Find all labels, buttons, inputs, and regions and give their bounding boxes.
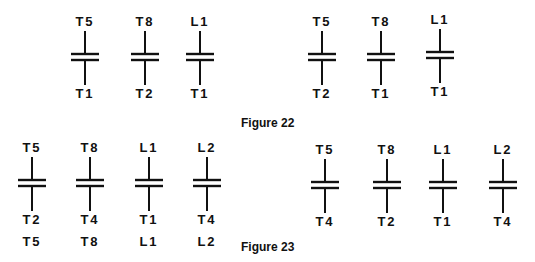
contact-icon: [305, 159, 345, 215]
contact-icon: [361, 31, 401, 87]
contact-icon: [423, 159, 463, 215]
contact-top-label: L2: [483, 143, 523, 157]
contact-icon: [125, 31, 165, 87]
contact-bottom-label: T4: [305, 215, 345, 229]
contact-top-label: T8: [70, 141, 110, 155]
contact-symbol: L1 T1: [420, 13, 460, 103]
contact-symbol: T8 T2: [125, 15, 165, 105]
contact-symbol: T8 T2: [367, 143, 407, 233]
contact-top-label: L1: [129, 141, 169, 155]
figure-caption: Figure 22: [241, 116, 294, 130]
figure-caption: Figure 23: [241, 240, 294, 254]
contact-bottom-label: T4: [483, 215, 523, 229]
contact-top-label: T5: [65, 15, 105, 29]
contact-top-label: L1: [423, 143, 463, 157]
contact-bottom-label: T2: [367, 215, 407, 229]
contact-icon: [70, 157, 110, 213]
contact-bottom-label: T1: [180, 87, 220, 101]
contact-symbol: T8 T1: [361, 15, 401, 105]
contact-extra-label: L1: [129, 235, 169, 249]
contact-top-label: T5: [305, 143, 345, 157]
contact-symbol: T5 T2 T5: [12, 141, 52, 231]
contact-top-label: T8: [367, 143, 407, 157]
contact-bottom-label: T1: [423, 215, 463, 229]
contact-symbol: L2 T4 L2: [187, 141, 227, 231]
contact-symbol: T5 T2: [302, 15, 342, 105]
contact-symbol: T5 T1: [65, 15, 105, 105]
contact-icon: [129, 157, 169, 213]
contact-icon: [420, 29, 460, 85]
contact-bottom-label: T1: [420, 85, 460, 99]
contact-bottom-label: T1: [129, 213, 169, 227]
contact-bottom-label: T4: [70, 213, 110, 227]
contact-bottom-label: T2: [12, 213, 52, 227]
contact-bottom-label: T2: [125, 87, 165, 101]
contact-extra-label: T5: [12, 235, 52, 249]
contact-symbol: L1 T1: [180, 15, 220, 105]
contact-icon: [187, 157, 227, 213]
contact-bottom-label: T1: [361, 87, 401, 101]
contact-extra-label: T8: [70, 235, 110, 249]
contact-top-label: T8: [125, 15, 165, 29]
contact-symbol: L1 T1: [423, 143, 463, 233]
contact-symbol: L1 T1 L1: [129, 141, 169, 231]
contact-top-label: T5: [12, 141, 52, 155]
contact-top-label: L1: [180, 15, 220, 29]
contact-top-label: L1: [420, 13, 460, 27]
contact-icon: [483, 159, 523, 215]
contact-top-label: T8: [361, 15, 401, 29]
contact-bottom-label: T4: [187, 213, 227, 227]
contact-icon: [367, 159, 407, 215]
contact-bottom-label: T2: [302, 87, 342, 101]
contact-symbol: T8 T4 T8: [70, 141, 110, 231]
contact-icon: [12, 157, 52, 213]
contact-icon: [302, 31, 342, 87]
contact-icon: [65, 31, 105, 87]
contact-icon: [180, 31, 220, 87]
contact-symbol: T5 T4: [305, 143, 345, 233]
contact-top-label: T5: [302, 15, 342, 29]
contact-bottom-label: T1: [65, 87, 105, 101]
contact-extra-label: L2: [187, 235, 227, 249]
contact-symbol: L2 T4: [483, 143, 523, 233]
contact-top-label: L2: [187, 141, 227, 155]
